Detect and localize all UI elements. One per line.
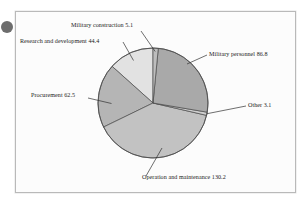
slice-label-research-and-development: Research and development 44.4 <box>20 38 99 44</box>
slice-label-military-personnel: Military personnel 86.8 <box>209 51 268 57</box>
slice-label-operation-and-maintenance: Operation and maintenance 130.2 <box>142 174 226 180</box>
pie-slice-military-personnel[interactable] <box>153 48 208 112</box>
slice-label-military-construction: Military construction 5.1 <box>71 22 133 28</box>
slice-label-procurement: Procurement 62.5 <box>31 92 75 98</box>
leader-line-military-personnel <box>187 55 207 64</box>
slice-label-other: Other 3.1 <box>248 102 271 108</box>
pie-chart-figure: Military construction 5.1 Research and d… <box>0 0 307 205</box>
leader-line-other <box>207 106 247 114</box>
chart-plot-area: Military construction 5.1 Research and d… <box>0 0 307 205</box>
